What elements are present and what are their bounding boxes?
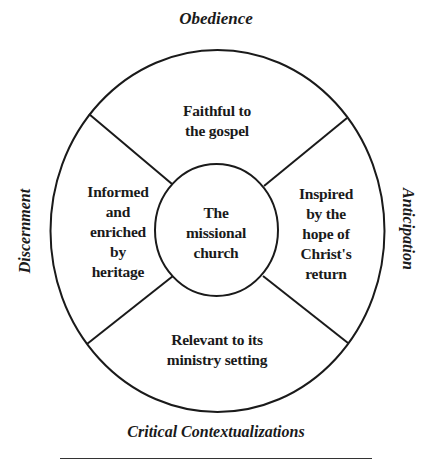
segment-right-line: hope of — [275, 224, 377, 244]
segment-right-line: Inspired — [275, 184, 377, 204]
segment-left-line: Informed — [66, 182, 170, 202]
segment-right-line: by the — [275, 204, 377, 224]
bottom-divider — [60, 458, 372, 459]
segment-left-line: enriched — [66, 222, 170, 242]
center-line: The — [166, 203, 266, 223]
segment-left-label: Informed and enriched by heritage — [66, 182, 170, 282]
segment-bottom-line: ministry setting — [125, 350, 309, 370]
center-label: The missional church — [166, 203, 266, 263]
center-line: church — [166, 243, 266, 263]
segment-left-line: and — [66, 202, 170, 222]
axis-label-top: Obedience — [0, 9, 432, 29]
segment-right-line: Christ's — [275, 244, 377, 264]
axis-label-bottom: Critical Contextualizations — [0, 423, 432, 441]
segment-top-line: Faithful to — [150, 101, 284, 121]
axis-label-right: Anticipation — [399, 188, 417, 270]
axis-label-left: Discernment — [16, 189, 34, 273]
missional-church-diagram: Obedience Discernment Anticipation Criti… — [0, 0, 432, 465]
segment-left-line: heritage — [66, 262, 170, 282]
center-line: missional — [166, 223, 266, 243]
segment-bottom-line: Relevant to its — [125, 330, 309, 350]
segment-left-line: by — [66, 242, 170, 262]
segment-right-line: return — [275, 264, 377, 284]
segment-top-line: the gospel — [150, 121, 284, 141]
segment-top-label: Faithful to the gospel — [150, 101, 284, 141]
segment-bottom-label: Relevant to its ministry setting — [125, 330, 309, 370]
segment-right-label: Inspired by the hope of Christ's return — [275, 184, 377, 284]
